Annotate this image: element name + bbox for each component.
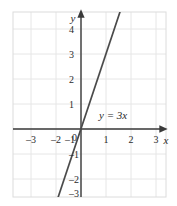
x-tick-1: 1 bbox=[104, 134, 109, 145]
x-tick-2: 2 bbox=[129, 134, 134, 145]
y-tick--2: –2 bbox=[68, 174, 79, 185]
origin-label: 0 bbox=[72, 132, 77, 143]
x-tick-3: 3 bbox=[154, 134, 159, 145]
x-axis-label: x bbox=[163, 134, 169, 146]
x-tick--2: –2 bbox=[50, 134, 61, 145]
y-axis-label: y bbox=[70, 12, 76, 24]
equation-label: y = 3x bbox=[98, 109, 127, 121]
y-tick-2: 2 bbox=[69, 74, 74, 85]
x-tick--3: –3 bbox=[25, 134, 36, 145]
graph-figure: –3 –2 –1 1 2 3 4 3 2 1 –1 –2 –3 0 x y y … bbox=[0, 0, 177, 206]
y-tick-4: 4 bbox=[69, 24, 74, 35]
y-tick-3: 3 bbox=[69, 49, 74, 60]
y-tick-1: 1 bbox=[69, 99, 74, 110]
y-tick--1: –1 bbox=[68, 149, 79, 160]
y-tick--3: –3 bbox=[68, 188, 79, 199]
figure-background bbox=[0, 0, 177, 206]
coordinate-plane: –3 –2 –1 1 2 3 4 3 2 1 –1 –2 –3 0 x y y … bbox=[0, 0, 177, 206]
